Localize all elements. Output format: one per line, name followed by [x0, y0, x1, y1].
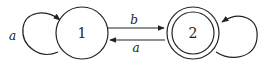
edge-label-2-1: a: [132, 41, 139, 55]
state-diagram: a 1 b a 2: [0, 0, 265, 67]
self-loop-state-1: a: [9, 13, 60, 54]
edge-label-1-1: a: [9, 29, 16, 43]
state-2: 2: [167, 7, 219, 59]
state-label-1: 1: [78, 25, 87, 41]
state-label-2: 2: [189, 25, 198, 41]
edge-2-to-1: a: [110, 40, 165, 55]
loop-arrow-icon: [216, 16, 257, 57]
edge-1-to-2: b: [108, 13, 164, 28]
self-loop-state-2: [216, 16, 257, 57]
state-1: 1: [56, 7, 108, 59]
edge-label-1-2: b: [130, 13, 138, 27]
loop-arrow-icon: [23, 13, 60, 54]
